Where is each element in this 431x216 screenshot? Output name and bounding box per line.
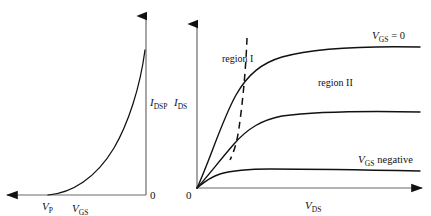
left-origin-label: 0 xyxy=(150,189,156,201)
right-y-axis-label: IDS xyxy=(173,96,187,111)
left-transfer-curve xyxy=(48,50,145,195)
jfet-characteristics-figure: IDSP 0 VP VGS xyxy=(0,0,431,216)
region-one-label: region I xyxy=(222,53,253,64)
left-pinchoff-label: VP xyxy=(42,200,53,215)
region-two-label: region II xyxy=(318,77,353,88)
curve-vgs-zero xyxy=(197,47,420,188)
curve-vgs-intermediate xyxy=(197,111,420,188)
curve-label-vgs-zero: VGS= 0 xyxy=(372,29,405,44)
left-y-axis-label: IDSP xyxy=(149,96,167,111)
right-origin-label: 0 xyxy=(186,189,192,201)
figure-canvas: IDSP 0 VP VGS xyxy=(0,0,431,216)
curve-vgs-negative xyxy=(197,169,420,188)
right-x-axis-label: VDS xyxy=(305,199,321,214)
curve-label-vgs-negative: VGSnegative xyxy=(358,153,413,168)
right-chart-group: IDS 0 VDS VGS= 0 VGSnegative region I re… xyxy=(173,24,422,214)
left-chart-group: IDSP 0 VP VGS xyxy=(7,16,167,216)
left-x-axis-label: VGS xyxy=(72,202,88,216)
